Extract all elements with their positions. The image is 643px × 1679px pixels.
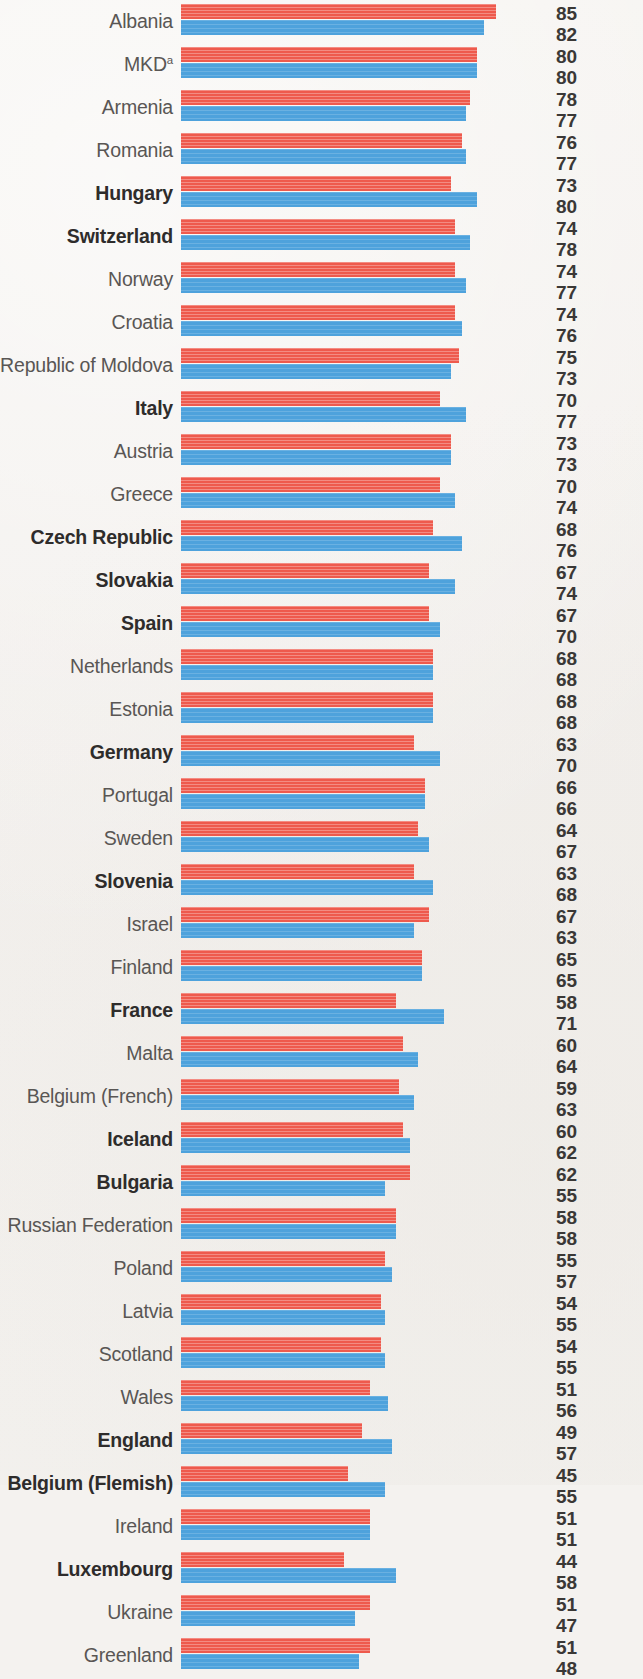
value-labels: 7380 bbox=[556, 172, 602, 217]
bar-girls bbox=[181, 1611, 355, 1626]
category-label: Norway bbox=[0, 258, 173, 301]
bar-boys bbox=[181, 348, 459, 363]
bar-girls bbox=[181, 1654, 359, 1669]
value-boys: 70 bbox=[556, 390, 602, 411]
category-label: Switzerland bbox=[0, 215, 173, 258]
value-labels: 4555 bbox=[556, 1462, 602, 1507]
bar-girls bbox=[181, 106, 466, 121]
bar-girls bbox=[181, 407, 466, 422]
bar-boys bbox=[181, 1294, 381, 1309]
bar-girls bbox=[181, 794, 425, 809]
value-girls: 63 bbox=[556, 927, 602, 948]
value-girls: 65 bbox=[556, 970, 602, 991]
bar-boys bbox=[181, 1165, 410, 1180]
category-label: Republic of Moldova bbox=[0, 344, 173, 387]
value-boys: 74 bbox=[556, 304, 602, 325]
value-boys: 60 bbox=[556, 1035, 602, 1056]
chart-row: Switzerland7478 bbox=[0, 215, 643, 258]
bar-boys bbox=[181, 391, 440, 406]
value-labels: 5147 bbox=[556, 1591, 602, 1636]
value-labels: 6770 bbox=[556, 602, 602, 647]
value-boys: 64 bbox=[556, 820, 602, 841]
bar-boys bbox=[181, 4, 496, 19]
bar-girls bbox=[181, 1009, 444, 1024]
value-girls: 68 bbox=[556, 712, 602, 733]
value-girls: 57 bbox=[556, 1443, 602, 1464]
value-labels: 6774 bbox=[556, 559, 602, 604]
chart-row: Scotland5455 bbox=[0, 1333, 643, 1376]
bar-boys bbox=[181, 692, 433, 707]
value-boys: 51 bbox=[556, 1508, 602, 1529]
value-labels: 5148 bbox=[556, 1634, 602, 1679]
value-boys: 73 bbox=[556, 175, 602, 196]
category-label: Finland bbox=[0, 946, 173, 989]
chart-row: Spain6770 bbox=[0, 602, 643, 645]
value-boys: 51 bbox=[556, 1594, 602, 1615]
value-boys: 58 bbox=[556, 992, 602, 1013]
chart-row: Czech Republic6876 bbox=[0, 516, 643, 559]
category-label: Albania bbox=[0, 0, 173, 43]
bar-boys bbox=[181, 606, 429, 621]
value-labels: 5963 bbox=[556, 1075, 602, 1120]
chart-row: Portugal6666 bbox=[0, 774, 643, 817]
chart-row: Greece7074 bbox=[0, 473, 643, 516]
bar-girls bbox=[181, 1439, 392, 1454]
value-labels: 6868 bbox=[556, 688, 602, 733]
value-labels: 5151 bbox=[556, 1505, 602, 1550]
category-label: Greece bbox=[0, 473, 173, 516]
bar-girls bbox=[181, 837, 429, 852]
value-labels: 4458 bbox=[556, 1548, 602, 1593]
bar-boys bbox=[181, 1423, 362, 1438]
bar-boys bbox=[181, 1380, 370, 1395]
chart-row: Finland6565 bbox=[0, 946, 643, 989]
value-girls: 68 bbox=[556, 669, 602, 690]
value-boys: 85 bbox=[556, 3, 602, 24]
category-label: Estonia bbox=[0, 688, 173, 731]
value-boys: 68 bbox=[556, 519, 602, 540]
bar-boys bbox=[181, 133, 462, 148]
value-girls: 47 bbox=[556, 1615, 602, 1636]
value-boys: 67 bbox=[556, 906, 602, 927]
value-girls: 76 bbox=[556, 540, 602, 561]
value-girls: 73 bbox=[556, 368, 602, 389]
category-label: Belgium (French) bbox=[0, 1075, 173, 1118]
bar-girls bbox=[181, 20, 484, 35]
chart-row: Belgium (French)5963 bbox=[0, 1075, 643, 1118]
value-girls: 70 bbox=[556, 626, 602, 647]
value-labels: 5455 bbox=[556, 1290, 602, 1335]
bar-girls bbox=[181, 192, 477, 207]
category-label: Slovakia bbox=[0, 559, 173, 602]
bar-girls bbox=[181, 1138, 410, 1153]
value-girls: 51 bbox=[556, 1529, 602, 1550]
category-label: Latvia bbox=[0, 1290, 173, 1333]
bar-boys bbox=[181, 219, 455, 234]
bar-boys bbox=[181, 434, 451, 449]
value-labels: 6370 bbox=[556, 731, 602, 776]
category-label: Malta bbox=[0, 1032, 173, 1075]
chart-row: Romania7677 bbox=[0, 129, 643, 172]
value-boys: 58 bbox=[556, 1207, 602, 1228]
chart-row: Belgium (Flemish)4555 bbox=[0, 1462, 643, 1505]
value-labels: 5858 bbox=[556, 1204, 602, 1249]
value-girls: 58 bbox=[556, 1228, 602, 1249]
value-boys: 70 bbox=[556, 476, 602, 497]
chart-row: Croatia7476 bbox=[0, 301, 643, 344]
category-label: Germany bbox=[0, 731, 173, 774]
category-label: Spain bbox=[0, 602, 173, 645]
value-labels: 6565 bbox=[556, 946, 602, 991]
value-boys: 78 bbox=[556, 89, 602, 110]
value-labels: 6876 bbox=[556, 516, 602, 561]
value-girls: 77 bbox=[556, 153, 602, 174]
chart-row: Albania8582 bbox=[0, 0, 643, 43]
value-girls: 55 bbox=[556, 1185, 602, 1206]
value-boys: 63 bbox=[556, 863, 602, 884]
value-girls: 48 bbox=[556, 1658, 602, 1679]
bar-girls bbox=[181, 966, 422, 981]
value-girls: 70 bbox=[556, 755, 602, 776]
value-girls: 62 bbox=[556, 1142, 602, 1163]
bar-boys bbox=[181, 778, 425, 793]
value-girls: 77 bbox=[556, 411, 602, 432]
value-labels: 6868 bbox=[556, 645, 602, 690]
category-label: Wales bbox=[0, 1376, 173, 1419]
value-boys: 49 bbox=[556, 1422, 602, 1443]
